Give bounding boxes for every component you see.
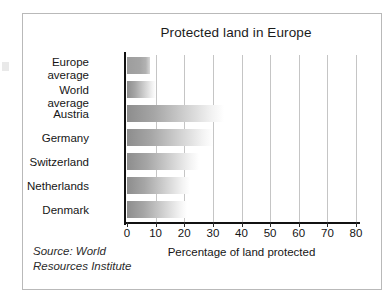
bar-denmark [127, 201, 187, 218]
y-label-switzerland: Switzerland [30, 156, 89, 169]
bar-world-average [127, 81, 156, 98]
plot-area [127, 55, 356, 222]
y-axis-line [124, 52, 126, 225]
screenshot-root: Protected land in Europe Europe average … [0, 0, 391, 305]
y-label-denmark: Denmark [42, 204, 89, 217]
y-label-austria: Austria [53, 108, 89, 121]
y-label-netherlands: Netherlands [27, 180, 89, 193]
x-axis-title: Percentage of land protected [127, 246, 356, 258]
bar-netherlands [127, 177, 190, 194]
gridline-70 [327, 55, 328, 222]
gridline-30 [213, 55, 214, 222]
gridline-60 [299, 55, 300, 222]
gridline-40 [242, 55, 243, 222]
source-note: Source: World Resources Institute [33, 244, 131, 274]
bar-europe-average [127, 57, 150, 74]
y-label-europe-average: Europe average [47, 56, 89, 81]
bar-germany [127, 129, 213, 146]
x-tick-80: 80 [336, 227, 376, 239]
chart-figure: Protected land in Europe Europe average … [22, 13, 382, 290]
gridline-80 [356, 55, 357, 222]
bar-austria [127, 105, 224, 122]
y-label-world-average: World average [23, 84, 89, 109]
y-label-germany: Germany [42, 132, 89, 145]
bar-switzerland [127, 153, 199, 170]
chart-title: Protected land in Europe [23, 25, 391, 40]
gridline-50 [270, 55, 271, 222]
scan-artifact [2, 62, 9, 71]
